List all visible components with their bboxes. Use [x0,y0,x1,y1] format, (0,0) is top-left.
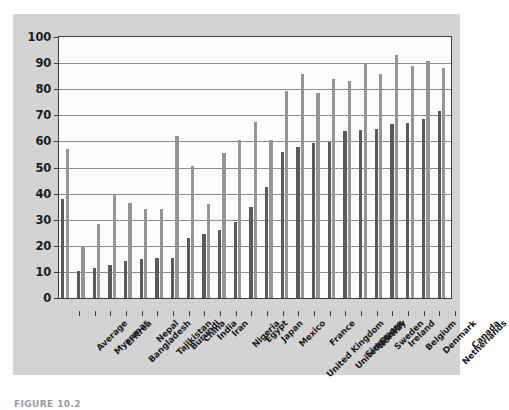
bar [364,64,367,298]
y-axis-tick-label: 40 [35,187,51,201]
x-axis-tick [345,311,346,316]
bar-group [137,37,153,298]
x-axis-tick [251,311,252,316]
bar-group [357,37,373,298]
bar [249,207,252,298]
x-axis-tick [95,311,96,316]
x-axis-tick [392,311,393,316]
bar [395,55,398,298]
bar [390,124,393,298]
x-axis-tick [455,311,456,316]
bar [265,187,268,298]
x-axis-tick [110,311,111,316]
bar [108,265,111,298]
bar [301,74,304,298]
bar [234,222,237,298]
bar-group [200,37,216,298]
bar-group [373,37,389,298]
y-axis-tick-label: 20 [35,239,51,253]
x-axis-tick [142,311,143,316]
bar [411,66,414,298]
y-axis-tick-label: 10 [35,265,51,279]
bar-group [184,37,200,298]
bar-group [326,37,342,298]
x-axis-tick [126,311,127,316]
x-axis-tick [204,311,205,316]
bar [207,204,210,298]
y-axis-tick-label: 60 [35,134,51,148]
bar [269,140,272,298]
x-axis-ticks [71,311,463,317]
y-axis-tick-label: 100 [28,30,51,44]
bar-group [404,37,420,298]
x-axis-tick [220,311,221,316]
bar-group [90,37,106,298]
x-axis-tick [361,311,362,316]
bar-group [231,37,247,298]
bar-group [153,37,169,298]
bar [144,209,147,298]
y-axis-tick-label: 80 [35,82,51,96]
bar [422,119,425,298]
bar [442,68,445,298]
x-axis-tick [424,311,425,316]
bar [328,142,331,298]
bar-group [247,37,263,298]
bar [296,147,299,298]
bar [343,131,346,298]
bar [93,268,96,298]
x-axis-tick [157,311,158,316]
y-axis-tick-label: 70 [35,108,51,122]
plot-area: 0102030405060708090100 [58,36,452,299]
bar-group [294,37,310,298]
y-axis-tick-label: 50 [35,161,51,175]
bar-group [216,37,232,298]
x-axis-tick [330,311,331,316]
bar [128,203,131,298]
bar [61,199,64,298]
bar-group [341,37,357,298]
x-axis-tick [298,311,299,316]
bar [113,195,116,298]
bar [426,61,429,299]
bar [406,123,409,298]
y-axis-tick-label: 30 [35,213,51,227]
bar-group [435,37,451,298]
x-axis-tick [236,311,237,316]
bar-group [75,37,91,298]
bar [254,122,257,298]
bar [140,259,143,298]
bar [379,74,382,298]
bar [238,140,241,298]
bar-group [122,37,138,298]
bar-group [388,37,404,298]
bar-group [310,37,326,298]
x-axis-tick [408,311,409,316]
bar [175,136,178,298]
bar-group [106,37,122,298]
bar [187,238,190,298]
bar [222,153,225,298]
x-axis-tick [267,311,268,316]
bar [77,271,80,298]
x-axis-tick [79,311,80,316]
bar [332,79,335,298]
bar [160,209,163,298]
x-axis-tick [377,311,378,316]
bar-group [279,37,295,298]
bar [124,261,127,298]
bar [191,166,194,298]
bar [281,152,284,298]
bar-group [420,37,436,298]
bar [348,81,351,298]
bar [202,234,205,298]
bar [438,111,441,298]
y-axis-tick-label: 0 [43,291,51,305]
y-axis-tick-label: 90 [35,56,51,70]
x-axis-tick [173,311,174,316]
bar-group [169,37,185,298]
bar [285,91,288,298]
y-axis-tick [54,298,59,299]
bar [171,258,174,298]
bar [316,93,319,298]
